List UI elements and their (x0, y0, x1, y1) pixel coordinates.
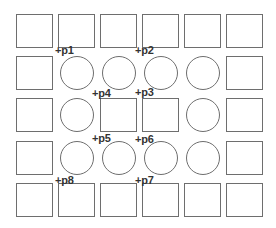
circle-shape (186, 98, 220, 132)
circle-shape (144, 56, 178, 90)
square-shape (16, 98, 53, 132)
circle-shape (144, 141, 178, 175)
circle-shape (102, 141, 136, 175)
circle-shape (102, 56, 136, 90)
square-shape (226, 14, 263, 48)
square-shape (58, 183, 95, 217)
square-shape (184, 14, 221, 48)
square-shape (226, 183, 263, 217)
point-label: +p3 (135, 87, 154, 98)
point-label: +p8 (55, 175, 74, 186)
point-label: +p6 (135, 134, 154, 145)
point-label: +p5 (92, 133, 111, 144)
point-label: +p4 (92, 88, 111, 99)
square-shape (16, 141, 53, 175)
point-label: +p7 (135, 175, 154, 186)
square-shape (16, 14, 53, 48)
point-label: +p2 (135, 45, 154, 56)
square-shape (16, 183, 53, 217)
square-shape (100, 183, 137, 217)
square-shape (100, 98, 137, 132)
circle-shape (60, 98, 94, 132)
circle-shape (186, 56, 220, 90)
circle-shape (186, 141, 220, 175)
square-shape (16, 56, 53, 90)
square-shape (100, 14, 137, 48)
circle-shape (60, 141, 94, 175)
grid-diagram: +p1+p2+p3+p4+p5+p6+p7+p8 (0, 0, 276, 228)
square-shape (142, 98, 179, 132)
square-shape (226, 98, 263, 132)
square-shape (184, 183, 221, 217)
circle-shape (60, 56, 94, 90)
square-shape (142, 14, 179, 48)
point-label: +p1 (55, 45, 74, 56)
square-shape (226, 141, 263, 175)
square-shape (58, 14, 95, 48)
square-shape (142, 183, 179, 217)
square-shape (226, 56, 263, 90)
